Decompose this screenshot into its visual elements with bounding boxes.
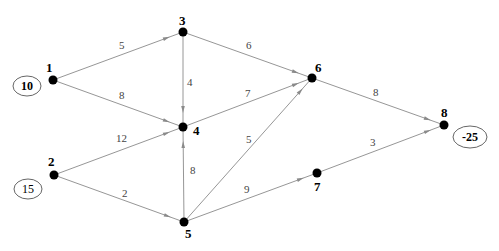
node-label: 6: [315, 60, 322, 75]
node-label: 8: [441, 105, 448, 120]
edge-4-6: 7: [183, 78, 312, 127]
node-8: 8: [440, 105, 449, 130]
supply-node-1: 10: [13, 76, 41, 96]
node-7: 7: [313, 169, 322, 195]
node-label: 2: [48, 154, 55, 169]
node-1: 1: [46, 60, 58, 85]
edge-2-4: 12: [54, 127, 183, 175]
arrowhead-icon: [292, 83, 299, 87]
edge-cost-label: 6: [246, 39, 252, 51]
supply-node-8: -25: [453, 126, 487, 148]
node-2: 2: [48, 154, 59, 180]
edge-2-5: 2: [54, 175, 184, 222]
edge-cost-label: 4: [187, 76, 193, 88]
arrowhead-icon: [297, 178, 304, 182]
arrowhead-icon: [181, 106, 185, 113]
supply-value: -25: [462, 130, 478, 144]
edge-cost-label: 2: [122, 187, 128, 199]
node-6: 6: [308, 60, 323, 83]
edge-3-4: 4: [181, 32, 193, 127]
arrowhead-icon: [164, 213, 171, 217]
edge-line: [184, 173, 317, 222]
edge-1-3: 5: [53, 32, 183, 80]
supply-value: 10: [21, 79, 33, 93]
edge-cost-label: 3: [370, 136, 376, 148]
node-label: 3: [179, 13, 186, 28]
edges-layer: 5846122875983: [53, 32, 444, 222]
edge-cost-label: 8: [119, 89, 125, 101]
edge-cost-label: 7: [245, 87, 251, 99]
node-5: 5: [180, 218, 193, 242]
arrowhead-icon: [181, 141, 185, 148]
arrowhead-icon: [424, 116, 431, 120]
network-diagram: 5846122875983 12345678 1015-25: [0, 0, 499, 251]
supply-value: 15: [22, 182, 34, 196]
node-3: 3: [179, 13, 188, 37]
supply-node-2: 15: [14, 179, 42, 199]
arrowhead-icon: [163, 118, 170, 122]
edge-cost-label: 9: [244, 183, 250, 195]
node-label: 4: [193, 123, 200, 138]
edge-6-8: 8: [312, 78, 444, 125]
edge-cost-label: 8: [190, 164, 196, 176]
edge-5-4: 8: [181, 127, 196, 222]
arrowhead-icon: [163, 132, 170, 136]
node-label: 5: [185, 226, 192, 241]
edge-cost-label: 5: [246, 133, 252, 145]
node-dot: [49, 76, 58, 85]
edge-3-6: 6: [183, 32, 312, 78]
node-dot: [179, 28, 188, 37]
edge-cost-label: 8: [373, 86, 379, 98]
edge-cost-label: 5: [119, 39, 125, 51]
node-label: 1: [46, 60, 53, 75]
arrowhead-icon: [424, 130, 431, 134]
edge-5-7: 9: [184, 173, 317, 222]
node-dot: [50, 171, 59, 180]
edge-7-8: 3: [317, 125, 444, 173]
arrowhead-icon: [163, 37, 170, 41]
node-label: 7: [314, 179, 321, 194]
edge-5-6: 5: [184, 78, 312, 222]
node-dot: [440, 121, 449, 130]
arrowhead-icon: [292, 69, 299, 73]
edge-cost-label: 12: [116, 132, 127, 144]
edge-1-4: 8: [53, 80, 183, 127]
edge-line: [184, 78, 312, 222]
node-dot: [179, 123, 188, 132]
node-dot: [313, 169, 322, 178]
